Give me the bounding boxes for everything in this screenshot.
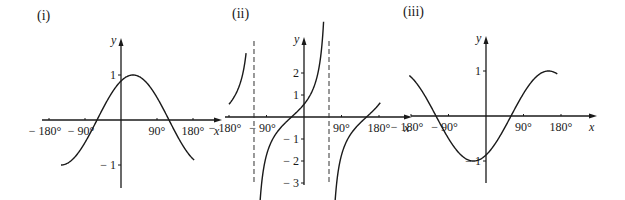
graph-panel-ii: (ii)xy− 180°− 90°90°180°21− 1− 2− 3 [209, 6, 412, 200]
y-tick-label: − 3 [283, 176, 299, 190]
y-axis-arrow-icon [119, 38, 124, 46]
y-axis-label: y [293, 32, 300, 46]
function-curve [229, 53, 246, 104]
y-tick-label: − 1 [100, 158, 116, 172]
trig-graphs-figure: (i)xy− 180°− 90°90°180°1− 1 (ii)xy− 180°… [0, 0, 625, 200]
panel-label: (i) [37, 8, 51, 24]
graph-panel-i: (i)xy− 180°− 90°90°180°1− 1 [29, 8, 222, 188]
y-axis-arrow-icon [484, 36, 489, 44]
x-tick-label: 180° [368, 121, 391, 135]
x-tick-label: − 90° [249, 121, 276, 135]
x-axis-arrow-icon [589, 114, 597, 119]
x-tick-label: 180° [550, 120, 573, 134]
x-tick-label: − 180° [391, 120, 424, 134]
x-tick-label: 180° [182, 124, 205, 138]
y-tick-label: 1 [110, 68, 116, 82]
panel-label: (ii) [232, 6, 249, 22]
x-tick-label: 90° [515, 120, 532, 134]
y-axis-arrow-icon [302, 37, 307, 45]
y-tick-label: 1 [293, 88, 299, 102]
y-axis-label: y [110, 33, 117, 47]
graph-panel-iii: (iii)xy− 180°− 90°90°180°1− 1 [391, 4, 597, 183]
x-tick-label: − 180° [29, 124, 62, 138]
panel-label: (iii) [403, 4, 424, 20]
y-axis-label: y [475, 31, 482, 45]
function-curve [259, 22, 323, 200]
y-tick-label: − 1 [283, 132, 299, 146]
y-tick-label: 1 [475, 64, 481, 78]
y-tick-label: 2 [293, 66, 299, 80]
x-tick-label: − 180° [209, 121, 242, 135]
x-tick-label: 90° [149, 124, 166, 138]
y-tick-label: − 2 [283, 154, 299, 168]
x-axis-label: x [588, 120, 595, 134]
x-tick-label: 90° [333, 121, 350, 135]
x-tick-label: − 90° [68, 124, 95, 138]
